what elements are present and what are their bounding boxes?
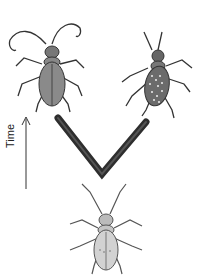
divergence-branch — [52, 112, 152, 182]
beetle-descendant-right-icon — [112, 26, 198, 120]
beetle-descendant-left-icon — [2, 14, 94, 116]
beetle-ancestor-icon — [64, 178, 148, 278]
time-arrow-icon — [20, 115, 32, 191]
time-axis-label: Time — [4, 124, 16, 148]
